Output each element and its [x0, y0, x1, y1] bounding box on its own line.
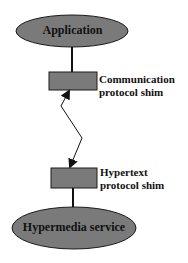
zigzag-arrow	[61, 106, 82, 167]
hypertext-shim-box	[51, 168, 97, 188]
communication-shim-label: Communication protocol shim	[99, 73, 175, 99]
diagram-canvas: Application Communication protocol shim …	[0, 0, 188, 263]
application-label: Application	[17, 23, 128, 38]
hypertext-shim-label-line1: Hypertext	[100, 166, 164, 179]
hypermedia-service-label: Hypermedia service	[12, 220, 136, 235]
hypertext-shim-label-line2: protocol shim	[100, 179, 164, 192]
zigzag-arrow-top-segment	[61, 91, 69, 106]
communication-shim-label-line1: Communication	[99, 73, 175, 86]
communication-shim-box	[49, 72, 97, 90]
hypertext-shim-label: Hypertext protocol shim	[100, 166, 164, 192]
communication-shim-label-line2: protocol shim	[99, 86, 175, 99]
